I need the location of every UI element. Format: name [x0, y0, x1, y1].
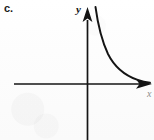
coordinate-plot: y x: [0, 0, 154, 140]
y-axis-label: y: [74, 3, 81, 15]
y-axis-arrowhead: [83, 7, 93, 22]
x-axis-label: x: [146, 88, 152, 99]
figure-panel: c. y x: [0, 0, 154, 140]
exponential-decay-curve: [96, 7, 151, 83]
